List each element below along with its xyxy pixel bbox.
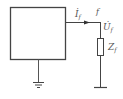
current-arrow-icon [84, 21, 90, 25]
impedance-label: Zf [107, 42, 118, 54]
ground-icon [33, 83, 44, 88]
impedance-resistor [98, 39, 104, 56]
voltage-label: U̇f [103, 21, 115, 34]
circuit-diagram: İf f U̇f Zf [0, 0, 123, 99]
node-label: f [95, 7, 101, 16]
current-label: İf [74, 8, 83, 21]
network-box [11, 8, 66, 60]
